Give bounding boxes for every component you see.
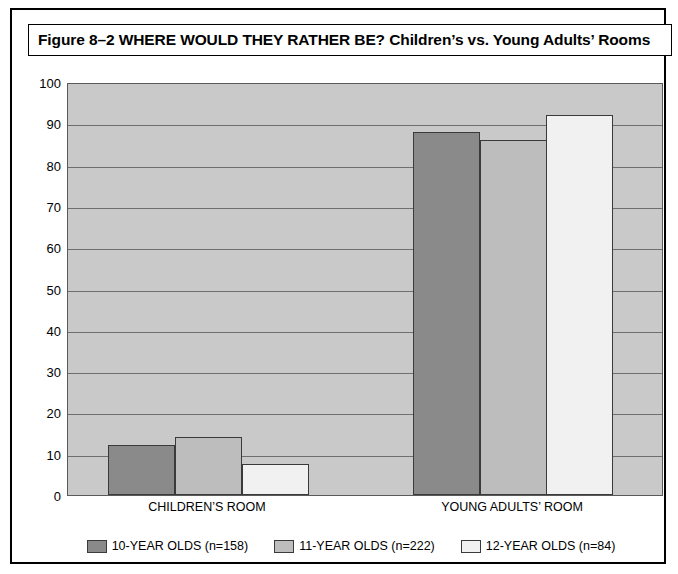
legend-swatch-3 [461,540,481,553]
bar-young-adults-room-11-year-olds [480,140,547,495]
y-axis-tick-label-20: 20 [21,406,61,421]
y-axis-tick-labels: 1009080706050403020100 [16,83,61,496]
page-title: Figure 8–2 WHERE WOULD THEY RATHER BE? C… [38,31,650,49]
y-axis-tick-label-30: 30 [21,365,61,380]
legend-label-1: 10-YEAR OLDS (n=158) [112,539,249,553]
bar-young-adults-room-10-year-olds [413,132,480,495]
figure-frame: Figure 8–2 WHERE WOULD THEY RATHER BE? C… [10,8,666,564]
y-axis-tick-label-90: 90 [21,117,61,132]
legend-swatch-2 [274,540,294,553]
x-axis-label-2: YOUNG ADULTS’ ROOM [441,500,583,514]
bar-young-adults-room-12-year-olds [546,115,613,495]
y-axis-tick-label-40: 40 [21,323,61,338]
figure-title-bar: Figure 8–2 WHERE WOULD THEY RATHER BE? C… [28,24,672,56]
bar-childrens-room-11-year-olds [175,437,242,495]
legend-item-2: 11-YEAR OLDS (n=222) [274,539,435,553]
y-axis-tick-label-60: 60 [21,241,61,256]
legend-item-1: 10-YEAR OLDS (n=158) [87,539,249,553]
legend-label-2: 11-YEAR OLDS (n=222) [299,539,435,553]
y-axis-tick-label-80: 80 [21,158,61,173]
bar-childrens-room-10-year-olds [108,445,175,495]
y-axis-tick-label-50: 50 [21,282,61,297]
legend-item-3: 12-YEAR OLDS (n=84) [461,539,616,553]
x-axis-label-1: CHILDREN’S ROOM [148,500,265,514]
chart-legend: 10-YEAR OLDS (n=158)11-YEAR OLDS (n=222)… [12,539,678,553]
y-axis-tick-label-70: 70 [21,199,61,214]
y-axis-tick-label-100: 100 [21,76,61,91]
bar-childrens-room-12-year-olds [242,464,309,495]
legend-label-3: 12-YEAR OLDS (n=84) [486,539,616,553]
plot-area [67,83,663,496]
figure-root: Figure 8–2 WHERE WOULD THEY RATHER BE? C… [0,0,678,574]
legend-swatch-1 [87,540,107,553]
y-axis-tick-label-0: 0 [21,489,61,504]
y-axis-tick-label-10: 10 [21,447,61,462]
